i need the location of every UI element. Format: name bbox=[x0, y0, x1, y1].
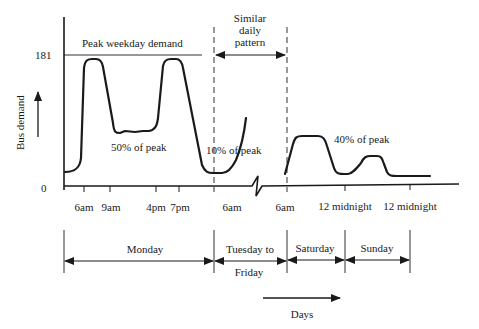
period-saturday: Saturday bbox=[295, 242, 334, 254]
period-arrows bbox=[65, 260, 409, 261]
similar-pattern-label-1: Similar bbox=[234, 12, 266, 24]
days-label: Days bbox=[291, 308, 314, 320]
x-tick-label: 12 midnight bbox=[318, 200, 371, 212]
bus-demand-diagram bbox=[0, 0, 479, 329]
x-axis bbox=[64, 176, 459, 196]
y-tick-zero: 0 bbox=[41, 182, 47, 194]
x-tick-label: 6am bbox=[276, 201, 295, 213]
weekend-label: 40% of peak bbox=[334, 133, 390, 145]
night-label: 10% of peak bbox=[206, 144, 262, 156]
similar-pattern-label-3: pattern bbox=[235, 36, 266, 48]
x-tick-label: 6am bbox=[223, 201, 242, 213]
period-monday: Monday bbox=[127, 243, 164, 255]
period-sunday: Sunday bbox=[361, 242, 394, 254]
y-tick-max: 181 bbox=[35, 49, 52, 61]
monday-offpeak-label: 50% of peak bbox=[111, 141, 167, 153]
x-tick-label: 4pm bbox=[146, 201, 166, 213]
x-tick-label: 12 midnight bbox=[383, 200, 436, 212]
x-tick-label: 7pm bbox=[170, 201, 190, 213]
x-tick-label: 9am bbox=[102, 201, 121, 213]
period-tuesday-friday-2: Friday bbox=[235, 266, 264, 278]
x-tick-label: 6am bbox=[75, 201, 94, 213]
similar-pattern-label-2: daily bbox=[239, 24, 261, 36]
peak-demand-label: Peak weekday demand bbox=[82, 37, 183, 49]
period-tuesday-friday: Tuesday to bbox=[226, 243, 274, 255]
y-axis-label: Bus demand bbox=[14, 95, 26, 150]
